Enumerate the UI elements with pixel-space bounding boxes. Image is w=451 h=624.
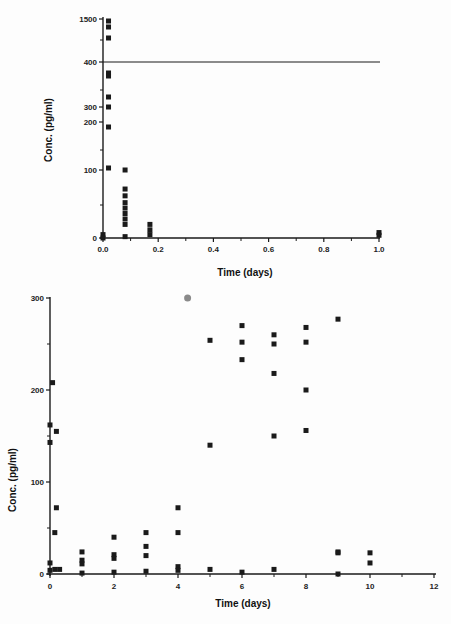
data-point <box>377 233 382 238</box>
data-point <box>57 567 62 572</box>
data-point <box>240 323 245 328</box>
top-y-axis-label: Conc. (pg/ml) <box>43 98 54 162</box>
data-point <box>144 530 149 535</box>
data-point <box>54 505 59 510</box>
data-point <box>80 571 85 576</box>
data-point <box>368 550 373 555</box>
data-point <box>272 332 277 337</box>
data-point <box>48 560 53 565</box>
data-point <box>106 125 111 130</box>
x-tick-label: 1.0 <box>373 245 385 254</box>
data-point <box>304 428 309 433</box>
data-point <box>272 567 277 572</box>
data-point <box>240 357 245 362</box>
data-point <box>272 434 277 439</box>
x-tick-label: 4 <box>176 582 181 591</box>
x-tick-label: 0.0 <box>97 245 109 254</box>
x-tick-label: 6 <box>240 582 245 591</box>
x-tick-label: 8 <box>304 582 309 591</box>
data-point <box>147 227 152 232</box>
data-point <box>147 232 152 237</box>
data-point <box>48 568 53 573</box>
data-point <box>144 553 149 558</box>
x-tick-label: 0 <box>48 582 53 591</box>
data-point <box>101 236 106 241</box>
bottom-chart: 0100200300 024681012 Conc. (pg/ml) Time … <box>7 294 439 609</box>
data-point <box>52 530 57 535</box>
data-point <box>123 206 128 211</box>
top-chart: 15004003002001000 0.00.20.40.60.81.0 Con… <box>43 15 385 278</box>
data-point <box>106 95 111 100</box>
data-point <box>176 505 181 510</box>
data-point <box>54 429 59 434</box>
bottom-y-ticks: 0100200300 <box>31 294 50 579</box>
y-tick-label: 100 <box>84 166 98 175</box>
data-point <box>208 567 213 572</box>
data-point <box>336 317 341 322</box>
data-point <box>106 19 111 24</box>
bottom-x-ticks: 024681012 <box>48 574 439 591</box>
bottom-y-axis-label: Conc. (pg/ml) <box>7 448 18 512</box>
x-tick-label: 0.4 <box>208 245 220 254</box>
data-point <box>80 549 85 554</box>
x-tick-label: 2 <box>112 582 117 591</box>
data-point <box>336 572 341 577</box>
figure-canvas: 15004003002001000 0.00.20.40.60.81.0 Con… <box>0 0 451 624</box>
data-point <box>106 25 111 30</box>
data-point <box>123 200 128 205</box>
x-tick-label: 10 <box>366 582 375 591</box>
data-point <box>106 166 111 171</box>
top-x-axis-label: Time (days) <box>217 267 272 278</box>
data-point <box>144 569 149 574</box>
data-point <box>80 561 85 566</box>
y-tick-label: 200 <box>31 386 45 395</box>
data-point <box>240 340 245 345</box>
data-point <box>208 338 213 343</box>
y-tick-label: 200 <box>84 118 98 127</box>
data-point <box>240 570 245 575</box>
x-tick-label: 0.8 <box>318 245 330 254</box>
y-tick-label: 400 <box>84 58 98 67</box>
data-point <box>123 211 128 216</box>
y-tick-label: 300 <box>84 103 98 112</box>
data-point <box>123 193 128 198</box>
data-point <box>48 440 53 445</box>
data-point <box>123 168 128 173</box>
x-tick-label: 12 <box>430 582 439 591</box>
data-point <box>52 567 57 572</box>
data-point <box>123 216 128 221</box>
y-tick-label: 100 <box>31 478 45 487</box>
data-point <box>123 234 128 239</box>
data-point <box>112 535 117 540</box>
data-point <box>50 380 55 385</box>
y-tick-label: 0 <box>93 234 98 243</box>
data-point <box>368 560 373 565</box>
data-point <box>123 187 128 192</box>
data-point <box>144 544 149 549</box>
data-point <box>112 556 117 561</box>
data-point <box>272 342 277 347</box>
data-point <box>106 36 111 41</box>
top-y-ticks: 15004003002001000 <box>79 15 103 243</box>
data-point <box>147 222 152 227</box>
outlier-point <box>184 295 191 302</box>
top-x-ticks: 0.00.20.40.60.81.0 <box>97 238 385 254</box>
data-point <box>304 340 309 345</box>
data-point <box>48 422 53 427</box>
data-point <box>112 570 117 575</box>
y-tick-label: 300 <box>31 294 45 303</box>
data-point <box>208 443 213 448</box>
data-point <box>176 530 181 535</box>
data-point <box>304 325 309 330</box>
data-point <box>336 550 341 555</box>
x-tick-label: 0.2 <box>153 245 165 254</box>
data-point <box>106 74 111 79</box>
bottom-x-axis-label: Time (days) <box>215 598 270 609</box>
bottom-data-points <box>48 295 373 577</box>
data-point <box>106 105 111 110</box>
data-point <box>272 371 277 376</box>
y-tick-label: 0 <box>40 570 45 579</box>
top-data-points <box>101 19 382 241</box>
x-tick-label: 0.6 <box>263 245 275 254</box>
data-point <box>123 222 128 227</box>
